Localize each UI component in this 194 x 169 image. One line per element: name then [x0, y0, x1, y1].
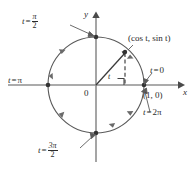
label-t-pi: t = π — [8, 76, 22, 85]
direction-arrowheads — [49, 49, 134, 129]
label-point-coordinates: (cos t, sin t) — [128, 34, 171, 43]
label-unit-point: (1, 0) — [143, 91, 163, 100]
radius-segment — [96, 51, 126, 85]
label-t-three-half-pi: t = 3π 2 — [38, 142, 58, 159]
unit-circle-figure: y x 0 t t = π 2 t = π t = 0 t = 2π t = 3… — [0, 0, 194, 169]
leader-lines — [70, 25, 152, 148]
label-t-half-pi: t = π 2 — [22, 13, 38, 30]
terminal-point — [123, 50, 127, 54]
label-t-two-pi: t = 2π — [143, 108, 162, 117]
x-axis-label: x — [183, 88, 187, 97]
label-t-zero: t = 0 — [150, 66, 164, 75]
fraction-pi-over-2: π 2 — [32, 13, 38, 30]
y-axis-label: y — [84, 10, 88, 19]
fraction-3pi-over-2: 3π 2 — [48, 142, 58, 159]
y-axis — [92, 12, 99, 163]
origin-label: 0 — [84, 89, 89, 98]
right-angle-marker — [118, 79, 125, 86]
angle-t-label: t — [108, 73, 110, 81]
